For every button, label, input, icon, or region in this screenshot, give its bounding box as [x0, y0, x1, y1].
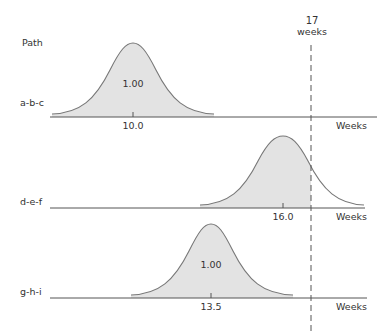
mean-label-g-h-i: 13.5	[200, 302, 221, 312]
deadline-value: 17	[306, 16, 319, 26]
axis-label-weeks-2: Weeks	[336, 212, 367, 222]
path-label-d-e-f: d-e-f	[20, 197, 42, 207]
mean-label-d-e-f: 16.0	[272, 212, 293, 222]
deadline-unit: weeks	[297, 27, 327, 37]
mean-label-a-b-c: 10.0	[122, 121, 143, 131]
axis-label-weeks-3: Weeks	[336, 302, 367, 312]
probability-label-a-b-c: 1.00	[122, 79, 143, 89]
path-distribution-diagram	[0, 0, 377, 334]
probability-label-g-h-i: 1.00	[200, 260, 221, 270]
axis-label-weeks-1: Weeks	[336, 121, 367, 131]
path-header: Path	[22, 38, 43, 48]
curve-a-b-c	[50, 43, 377, 117]
path-label-a-b-c: a-b-c	[20, 98, 44, 108]
path-label-g-h-i: g-h-i	[20, 287, 42, 297]
curve-d-e-f	[50, 136, 365, 208]
